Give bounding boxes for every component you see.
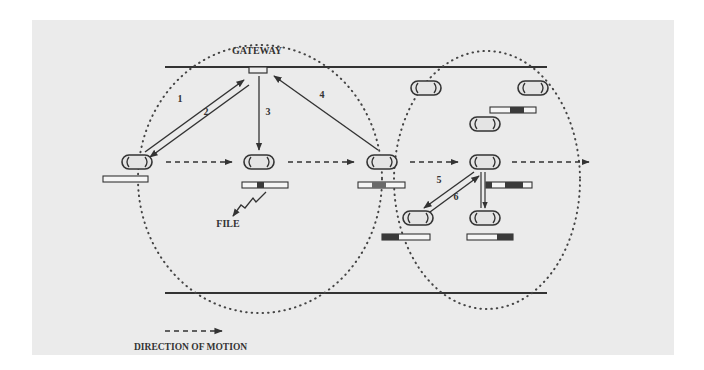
arrow-step-4 bbox=[274, 76, 378, 150]
vehicle-4 bbox=[470, 155, 500, 169]
step-label-3: 3 bbox=[266, 106, 271, 117]
vehicle-9 bbox=[470, 211, 500, 225]
step-label-5: 5 bbox=[437, 174, 442, 185]
vehicle-8 bbox=[403, 211, 433, 225]
vehicle-2 bbox=[244, 155, 274, 169]
arrow-step-5 bbox=[424, 172, 474, 208]
arrow-step-2 bbox=[150, 85, 249, 157]
gateway-icon bbox=[249, 67, 267, 73]
vehicle-5 bbox=[411, 81, 441, 95]
file-label: FILE bbox=[216, 218, 240, 229]
vehicle-7 bbox=[470, 117, 500, 131]
vehicle-1 bbox=[122, 155, 152, 169]
step-label-2: 2 bbox=[204, 106, 209, 117]
file-pointer-arrow bbox=[233, 192, 266, 216]
file-bar-v1 bbox=[103, 176, 148, 182]
vehicle-3 bbox=[367, 155, 397, 169]
file-bar-v2 bbox=[242, 182, 288, 188]
step-label-1: 1 bbox=[178, 93, 183, 104]
vehicle-6 bbox=[518, 81, 548, 95]
vehicular-network-diagram: GATEWAY 1 2 3 4 5 6 bbox=[0, 0, 704, 370]
step-label-4: 4 bbox=[320, 89, 325, 100]
legend-label: DIRECTION OF MOTION bbox=[134, 342, 247, 352]
arrow-step-1 bbox=[145, 80, 244, 152]
coverage-area-left bbox=[138, 45, 382, 313]
